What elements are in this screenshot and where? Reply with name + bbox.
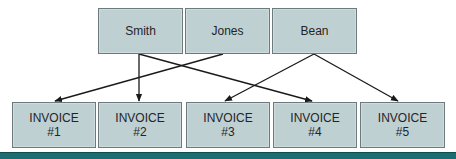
invoice-title: INVOICE [290,111,339,125]
invoice-box-4: INVOICE #4 [273,102,357,148]
invoice-box-1: INVOICE #1 [12,102,96,148]
bottom-accent-bar [0,152,456,159]
arrow-bean-invoice-3 [225,54,314,101]
invoice-number: #4 [308,125,321,139]
invoice-box-2: INVOICE #2 [98,102,182,148]
customer-box-smith: Smith [98,8,183,54]
invoice-title: INVOICE [378,111,427,125]
arrow-bean-invoice-5 [314,54,398,101]
arrow-smith-invoice-4 [139,54,312,101]
invoice-number: #1 [47,125,60,139]
customer-box-bean: Bean [272,8,357,54]
invoice-title: INVOICE [115,111,164,125]
invoice-number: #2 [133,125,146,139]
invoice-box-3: INVOICE #3 [186,102,270,148]
invoice-title: INVOICE [203,111,252,125]
customer-label: Smith [125,24,156,38]
invoice-number: #5 [396,125,409,139]
invoice-title: INVOICE [29,111,78,125]
customer-box-jones: Jones [185,8,270,54]
customer-label: Jones [211,24,243,38]
customer-label: Bean [300,24,328,38]
invoice-box-5: INVOICE #5 [360,102,445,148]
invoice-number: #3 [221,125,234,139]
